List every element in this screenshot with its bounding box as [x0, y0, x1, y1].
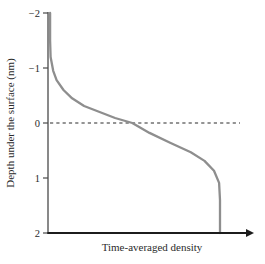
y-axis-label: Depth under the surface (nm): [4, 58, 17, 188]
density-profile-figure: −2−1012 Depth under the surface (nm) Tim…: [0, 0, 265, 264]
x-axis-label: Time-averaged density: [102, 241, 203, 253]
y-tick-label: −2: [29, 8, 40, 19]
y-tick-label: 2: [35, 228, 40, 239]
plot-layer: −2−1012: [29, 8, 254, 239]
y-tick-label: 0: [35, 118, 40, 129]
x-axis-arrowhead: [246, 229, 254, 237]
y-tick-label: 1: [35, 173, 40, 184]
chart-canvas: −2−1012 Depth under the surface (nm) Tim…: [0, 0, 265, 264]
y-tick-label: −1: [29, 63, 40, 74]
